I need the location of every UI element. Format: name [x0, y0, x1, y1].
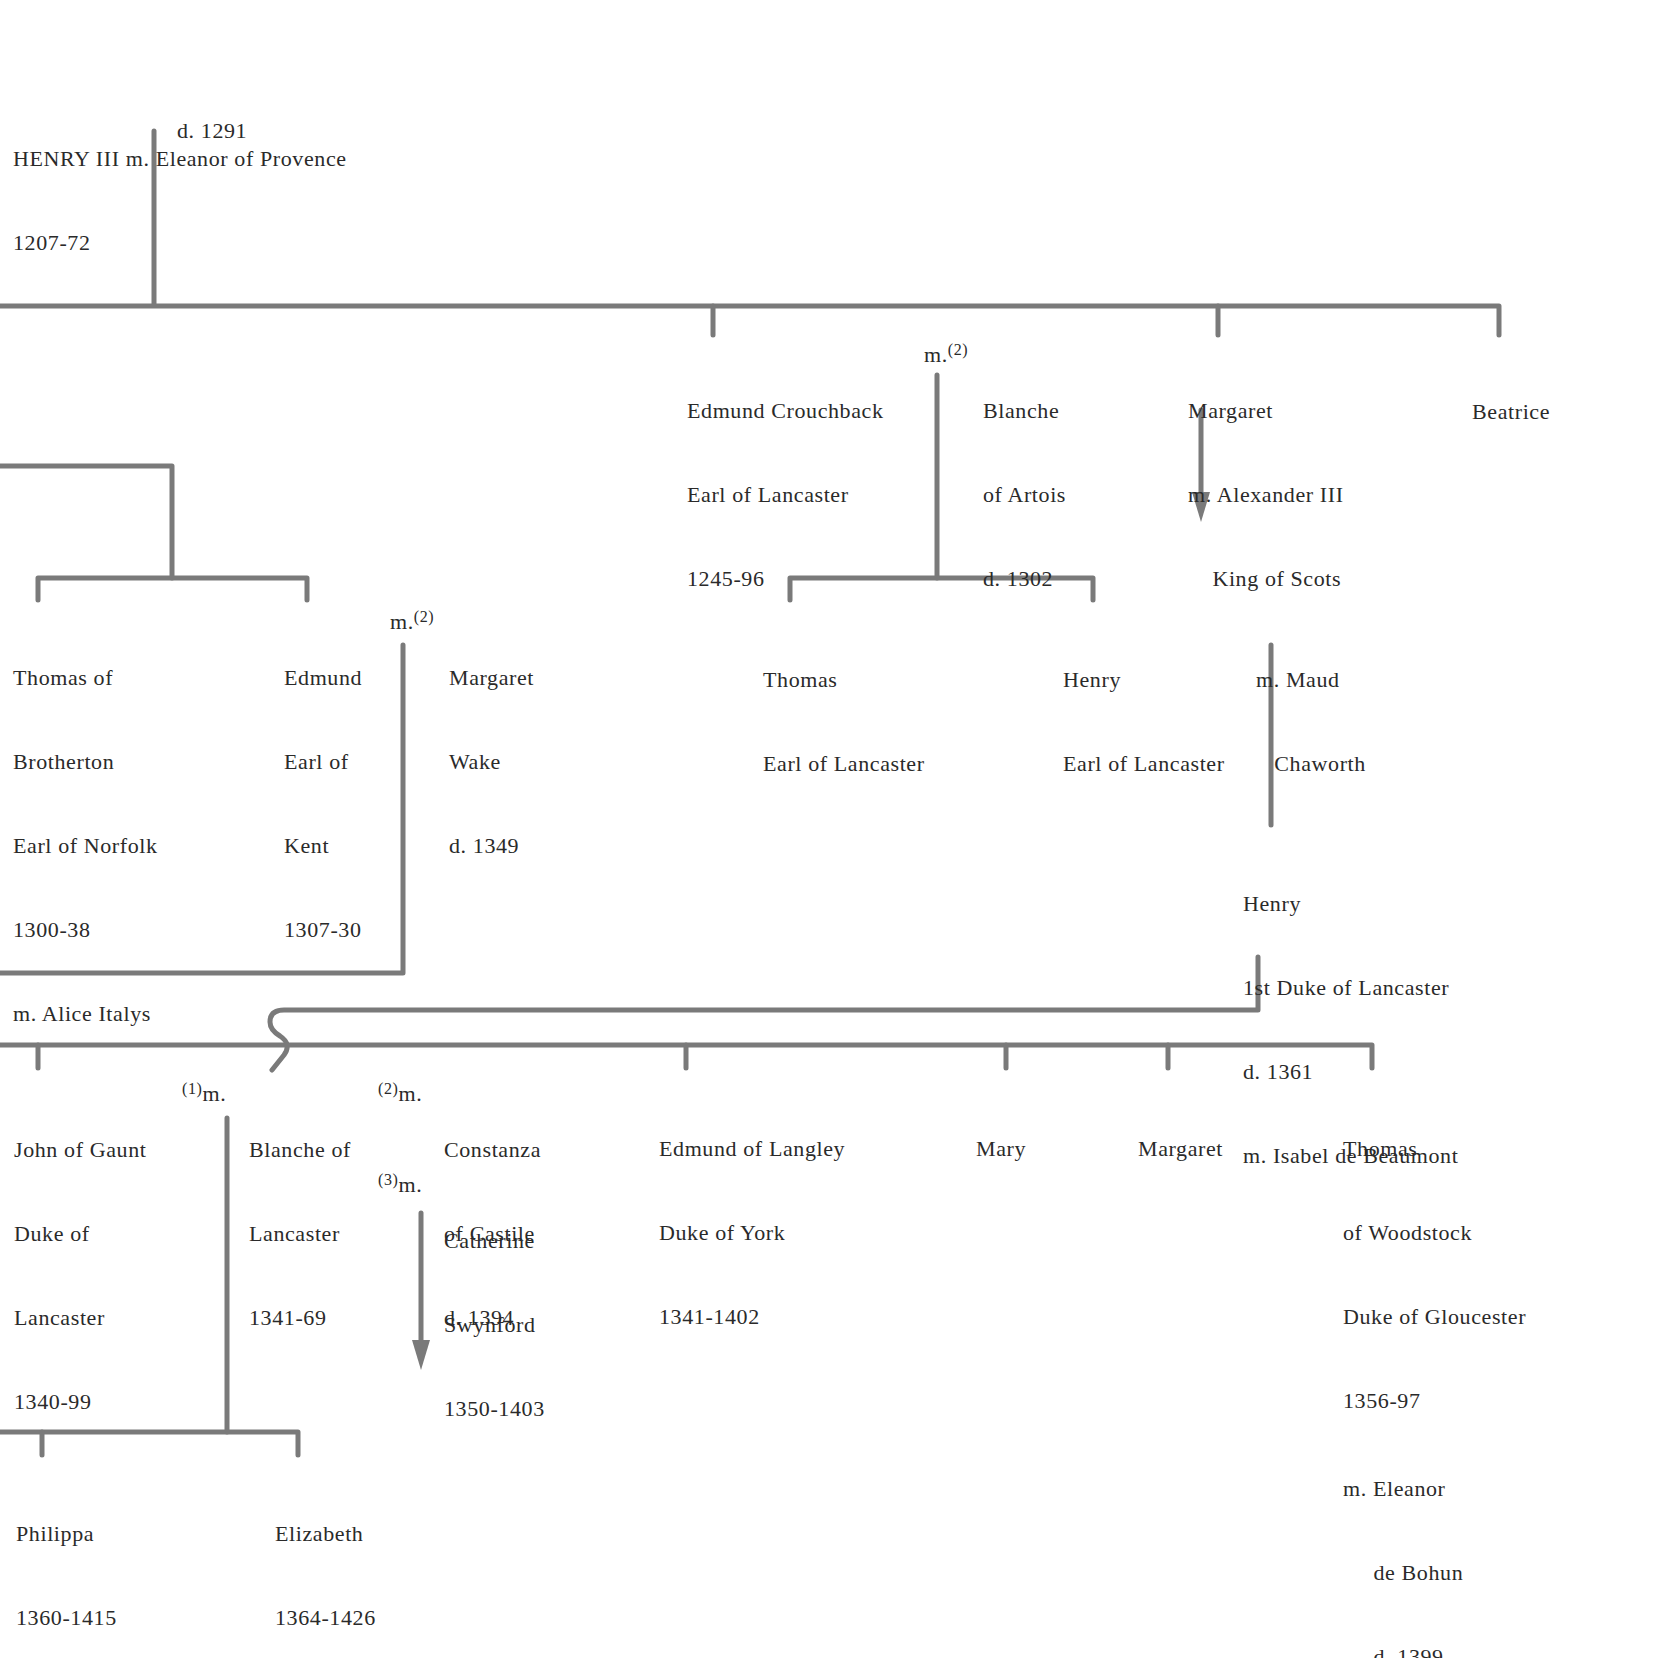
dates: 1245-96 — [687, 565, 884, 593]
john-gaunt-node: John of Gaunt Duke of Lancaster 1340-99 — [14, 1080, 146, 1444]
blanche-lancaster-node: Blanche of Lancaster 1341-69 — [249, 1080, 351, 1360]
catherine-swynford-node: Catherine Swynford 1350-1403 — [444, 1171, 545, 1451]
blanche-artois-node: Blanche of Artois d. 1302 — [983, 341, 1066, 621]
thomas-woodstock-node: Thomas of Woodstock Duke of Gloucester 1… — [1343, 1079, 1526, 1658]
marriage-label: m.(2) — [390, 608, 434, 636]
elizabeth-node: Elizabeth 1364-1426 — [275, 1464, 376, 1658]
name: Edmund Crouchback — [687, 397, 884, 425]
arrow-down-icon — [412, 1340, 430, 1370]
margaret-wake-node: Margaret Wake d. 1349 — [449, 608, 534, 888]
maud-chaworth-node: m. Maud Chaworth — [1256, 610, 1366, 806]
marriage-1-label: (1)m. — [182, 1080, 226, 1108]
edmund-kent-node: Edmund Earl of Kent 1307-30 — [284, 608, 362, 972]
marriage-label: m.(2) — [924, 341, 968, 369]
title: Earl of Lancaster — [687, 481, 884, 509]
name: Margaret — [1188, 397, 1344, 425]
death: d. 1302 — [983, 565, 1066, 593]
thomas-brotherton-node: Thomas of Brotherton Earl of Norfolk 130… — [13, 608, 158, 1056]
henry-iii-name: HENRY III m. Eleanor of Provence — [13, 145, 347, 173]
henry-lancaster-node: Henry Earl of Lancaster — [1063, 610, 1225, 806]
name: Blanche — [983, 397, 1066, 425]
margaret-scots-node: Margaret m. Alexander III King of Scots — [1188, 341, 1344, 621]
eleanor-death: d. 1291 — [177, 117, 247, 145]
margaret-node: Margaret — [1138, 1079, 1223, 1191]
spouse-title: King of Scots — [1188, 565, 1344, 593]
edmund-langley-node: Edmund of Langley Duke of York 1341-1402 — [659, 1079, 845, 1359]
edmund-crouchback-node: Edmund Crouchback Earl of Lancaster 1245… — [687, 341, 884, 621]
name: Beatrice — [1472, 398, 1550, 426]
spouse: m. Alexander III — [1188, 481, 1344, 509]
mary-node: Mary — [976, 1079, 1026, 1191]
marriage-3-label: (3)m. — [378, 1171, 422, 1199]
marriage-2-label: (2)m. — [378, 1080, 422, 1108]
title: of Artois — [983, 481, 1066, 509]
beatrice-node: Beatrice — [1472, 342, 1550, 454]
thomas-lancaster-node: Thomas Earl of Lancaster — [763, 610, 925, 806]
henry-iii-dates: 1207-72 — [13, 229, 347, 257]
philippa-node: Philippa 1360-1415 m. John, King of Port… — [16, 1464, 151, 1658]
